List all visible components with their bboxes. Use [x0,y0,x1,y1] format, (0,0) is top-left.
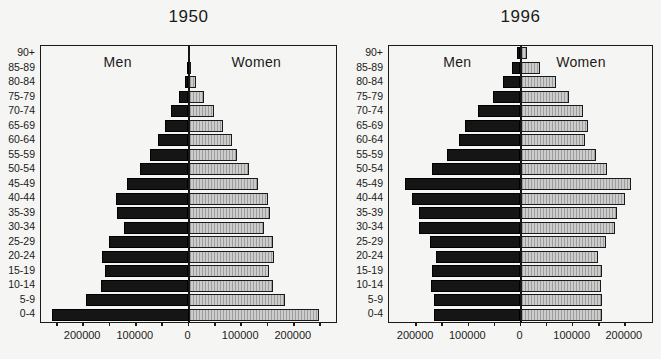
chart-title-1996: 1996 [388,7,653,27]
bar-women-5-9 [189,294,286,306]
bar-men-20-24 [436,251,520,263]
age-label-90+: 90+ [347,45,383,60]
axis-tick [468,322,470,326]
age-label-25-29: 25-29 [0,234,35,249]
axis-tick [240,322,242,326]
age-label-90+: 90+ [0,45,35,60]
axis-tick-label: 100000 [116,329,153,341]
age-label-40-44: 40-44 [0,190,35,205]
age-label-25-29: 25-29 [347,234,383,249]
axis-tick [415,322,417,326]
bar-men-75-79 [493,91,520,103]
bar-women-75-79 [521,91,569,103]
bar-men-50-54 [140,163,189,175]
bar-women-0-4 [189,309,319,321]
axis-tick [135,322,137,326]
axis-tick [598,322,600,326]
axis-tick-label: 100000 [449,329,486,341]
bar-men-60-64 [158,134,188,146]
bar-women-0-4 [521,309,603,321]
bar-women-35-39 [521,207,618,219]
bar-women-60-64 [189,134,233,146]
bar-men-35-39 [419,207,521,219]
axis-tick [441,322,443,326]
bar-women-55-59 [189,149,238,161]
bar-men-25-29 [430,236,520,248]
bar-women-25-29 [189,236,274,248]
age-label-85-89: 85-89 [347,60,383,75]
bar-women-75-79 [189,91,205,103]
bar-women-50-54 [189,163,250,175]
age-label-0-4: 0-4 [347,306,383,321]
bar-women-25-29 [521,236,607,248]
axis-tick [319,322,321,326]
plot-area-1996: Men Women [388,45,653,323]
age-label-5-9: 5-9 [0,292,35,307]
bar-men-0-4 [52,309,188,321]
bar-men-45-49 [127,178,188,190]
bar-women-55-59 [521,149,596,161]
women-series-label: Women [232,54,281,70]
bar-women-70-74 [189,105,215,117]
bar-men-5-9 [86,294,189,306]
age-label-80-84: 80-84 [0,74,35,89]
age-label-30-34: 30-34 [347,219,383,234]
women-series-label: Women [556,54,605,70]
age-label-55-59: 55-59 [347,147,383,162]
axis-tick-label: 200000 [64,329,101,341]
bar-women-20-24 [521,251,599,263]
age-axis-1996: 90+85-8980-8475-7970-7465-6960-6455-5950… [347,45,383,323]
bar-women-35-39 [189,207,271,219]
axis-tick [494,322,496,326]
bar-women-65-69 [521,120,588,132]
men-series-label: Men [104,54,132,70]
age-label-55-59: 55-59 [0,147,35,162]
age-label-45-49: 45-49 [0,176,35,191]
age-label-85-89: 85-89 [0,60,35,75]
age-label-60-64: 60-64 [347,132,383,147]
age-label-70-74: 70-74 [347,103,383,118]
bar-women-15-19 [521,265,603,277]
axis-tick [109,322,111,326]
bar-women-45-49 [521,178,631,190]
bar-men-85-89 [512,62,521,74]
age-label-45-49: 45-49 [347,176,383,191]
bar-men-55-59 [447,149,521,161]
age-label-5-9: 5-9 [347,292,383,307]
age-label-30-34: 30-34 [0,219,35,234]
axis-tick [214,322,216,326]
pyramid-chart-1996: 1996 90+85-8980-8475-7970-7465-6960-6455… [345,0,661,359]
age-label-35-39: 35-39 [347,205,383,220]
bar-men-80-84 [503,76,520,88]
axis-tick-label: 100000 [553,329,590,341]
bar-women-20-24 [189,251,274,263]
bar-men-65-69 [465,120,521,132]
age-label-50-54: 50-54 [347,161,383,176]
bar-men-40-44 [116,193,188,205]
age-label-20-24: 20-24 [347,248,383,263]
axis-tick [293,322,295,326]
bar-men-10-14 [431,280,521,292]
bar-men-25-29 [109,236,188,248]
bar-women-80-84 [189,76,197,88]
axis-tick [267,322,269,326]
age-label-50-54: 50-54 [0,161,35,176]
age-label-15-19: 15-19 [347,263,383,278]
bar-women-85-89 [521,62,541,74]
bar-women-40-44 [521,193,625,205]
bar-women-5-9 [521,294,603,306]
bar-men-50-54 [432,163,521,175]
bar-men-70-74 [171,105,188,117]
age-label-65-69: 65-69 [0,118,35,133]
bar-men-70-74 [478,105,521,117]
axis-tick [624,322,626,326]
axis-tick [520,322,522,326]
bar-women-15-19 [189,265,269,277]
bar-women-40-44 [189,193,268,205]
x-axis-labels-1996: 2000001000000100000200000 [388,329,653,343]
age-axis-1950: 90+85-8980-8475-7970-7465-6960-6455-5950… [0,45,35,323]
age-label-15-19: 15-19 [0,263,35,278]
bar-women-65-69 [189,120,223,132]
axis-tick [572,322,574,326]
bar-women-50-54 [521,163,607,175]
